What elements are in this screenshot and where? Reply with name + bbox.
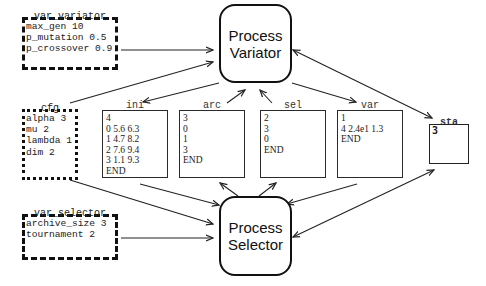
process-selector-node[interactable]: Process Selector bbox=[219, 196, 292, 276]
var-selector-content: archive_size 3 tournament 2 bbox=[26, 218, 107, 240]
sta-file-box[interactable]: 3 bbox=[429, 124, 469, 164]
cfg-content: alpha 3 mu 2 lambda 1 dim 2 bbox=[26, 113, 72, 158]
var-variator-box[interactable]: var_variator max_gen 10 p_mutation 0.5 p… bbox=[22, 17, 118, 70]
ini-file-box[interactable]: 4 0 5.6 6.3 1 4.7 8.2 2 7.6 9.4 3 1.1 9.… bbox=[102, 110, 168, 178]
process-selector-line1: Process bbox=[228, 219, 282, 236]
process-variator-line2: Variator bbox=[230, 44, 281, 61]
var-selector-box[interactable]: var_selector archive_size 3 tournament 2 bbox=[22, 214, 118, 260]
sel-content: 2 3 0 END bbox=[264, 113, 284, 155]
var-variator-content: max_gen 10 p_mutation 0.5 p_crossover 0.… bbox=[26, 21, 112, 55]
sta-value: 3 bbox=[432, 125, 438, 137]
edge-ini-selector bbox=[140, 184, 219, 205]
arc-file-box[interactable]: 3 0 1 3 END bbox=[179, 110, 245, 178]
ini-content: 4 0 5.6 6.3 1 4.7 8.2 2 7.6 9.4 3 1.1 9.… bbox=[106, 113, 139, 177]
cfg-box[interactable]: cfg alpha 3 mu 2 lambda 1 dim 2 bbox=[22, 109, 78, 180]
var-content: 1 4 2.4e1 1.3 END bbox=[341, 113, 383, 145]
edge-selector-sel bbox=[259, 183, 276, 196]
arc-content: 3 0 1 3 END bbox=[183, 113, 203, 166]
var-file-box[interactable]: 1 4 2.4e1 1.3 END bbox=[337, 110, 403, 178]
process-variator-line1: Process bbox=[228, 27, 282, 44]
edge-var-selector bbox=[287, 184, 357, 204]
sel-file-box[interactable]: 2 3 0 END bbox=[260, 110, 326, 178]
process-selector-line2: Selector bbox=[228, 236, 283, 253]
edge-selector-arc bbox=[220, 183, 238, 196]
process-variator-node[interactable]: Process Variator bbox=[219, 4, 292, 83]
edge-selector-sta bbox=[293, 170, 434, 237]
